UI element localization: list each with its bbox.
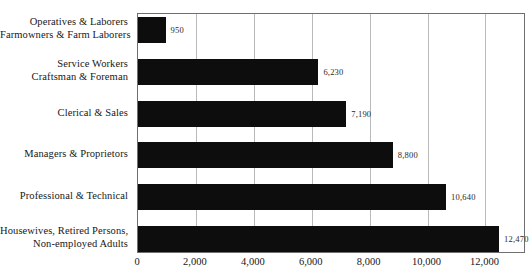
- gridline: [254, 14, 255, 252]
- category-label-line-2: Craftsman & Foreman: [0, 71, 128, 84]
- bar[interactable]: [138, 17, 166, 43]
- bar[interactable]: [138, 142, 393, 168]
- x-axis-tick-label: 6,000: [299, 256, 323, 268]
- plot-area: 9506,2307,1908,80010,64012,470: [137, 13, 525, 253]
- bar[interactable]: [138, 101, 346, 127]
- category-axis-labels: Operatives & Laborers Farmowners & Farm …: [0, 0, 132, 252]
- bar-value-label: 950: [171, 25, 184, 35]
- category-label-managers-proprietors: Managers & Proprietors: [0, 148, 128, 161]
- category-label-professional-technical: Professional & Technical: [0, 190, 128, 203]
- bar-value-label: 12,470: [504, 234, 529, 244]
- bar-value-label: 6,230: [323, 67, 343, 77]
- x-axis-tick-label: 8,000: [357, 256, 381, 268]
- x-axis-tick-label: 2,000: [183, 256, 207, 268]
- bar[interactable]: [138, 184, 446, 210]
- bar-value-label: 7,190: [351, 109, 371, 119]
- gridline: [370, 14, 371, 252]
- x-axis: 02,0004,0006,0008,00010,00012,000: [137, 253, 525, 277]
- x-axis-tick-label: 12,000: [470, 256, 499, 268]
- x-axis-tick-label: 10,000: [412, 256, 441, 268]
- category-label-line-1: Professional & Technical: [0, 190, 128, 203]
- bar-chart: Operatives & Laborers Farmowners & Farm …: [0, 0, 532, 280]
- category-label-line-1: Service Workers: [0, 58, 128, 71]
- category-label-clerical-sales: Clerical & Sales: [0, 107, 128, 120]
- category-label-service-workers: Service Workers Craftsman & Foreman: [0, 58, 128, 83]
- gridline: [196, 14, 197, 252]
- bar-value-label: 8,800: [398, 150, 418, 160]
- category-label-line-1: Clerical & Sales: [0, 107, 128, 120]
- bar[interactable]: [138, 226, 499, 252]
- bar[interactable]: [138, 59, 318, 85]
- gridline: [428, 14, 429, 252]
- category-label-line-1: Managers & Proprietors: [0, 148, 128, 161]
- category-label-line-2: Non-employed Adults: [0, 238, 128, 251]
- category-label-housewives-retired: Housewives, Retired Persons, Non-employe…: [0, 225, 128, 250]
- category-label-line-2: Farmowners & Farm Laborers: [0, 29, 128, 42]
- category-label-operatives-laborers: Operatives & Laborers Farmowners & Farm …: [0, 16, 128, 41]
- gridline: [485, 14, 486, 252]
- bar-value-label: 10,640: [451, 192, 476, 202]
- x-axis-tick-label: 0: [134, 256, 139, 268]
- category-label-line-1: Housewives, Retired Persons,: [0, 225, 128, 238]
- gridline: [312, 14, 313, 252]
- category-label-line-1: Operatives & Laborers: [0, 16, 128, 29]
- x-axis-tick-label: 4,000: [241, 256, 265, 268]
